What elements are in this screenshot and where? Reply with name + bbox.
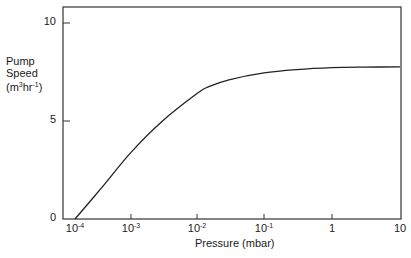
y-tick-label: 10 — [36, 15, 56, 27]
y-label-line-1: Pump — [6, 55, 42, 67]
x-tick-label: 10 — [394, 222, 406, 234]
chart-canvas — [0, 0, 411, 258]
x-tick-label: 10-2 — [188, 222, 206, 234]
x-tick-label: 1 — [329, 222, 335, 234]
x-tick-label: 10-3 — [122, 222, 140, 234]
y-axis-ticks — [63, 23, 70, 121]
y-tick-label: 5 — [36, 113, 56, 125]
x-tick-label: 10-4 — [66, 222, 84, 234]
pump-speed-curve — [75, 67, 400, 219]
y-label-line-3: (m3hr-1) — [6, 79, 42, 93]
y-tick-label: 0 — [36, 211, 56, 223]
x-axis-ticks — [131, 214, 332, 219]
x-axis-label: Pressure (mbar) — [195, 237, 274, 249]
plot-frame — [63, 7, 401, 219]
y-label-line-2: Speed — [6, 67, 42, 79]
y-axis-label: Pump Speed (m3hr-1) — [6, 55, 42, 93]
x-tick-label: 10-1 — [255, 222, 273, 234]
